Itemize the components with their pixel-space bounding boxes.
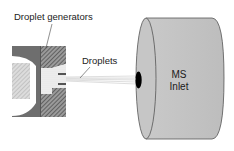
leader-droplets — [80, 67, 90, 78]
droplet-generator — [12, 46, 66, 117]
label-droplets: Droplets — [82, 55, 118, 66]
label-ms: MS — [172, 69, 187, 80]
label-inlet: Inlet — [170, 81, 189, 92]
label-droplet-generators: Droplet generators — [14, 11, 93, 22]
diagram-svg: Droplet generators Droplets MS Inlet — [0, 0, 234, 151]
diagram-canvas: Droplet generators Droplets MS Inlet — [0, 0, 234, 151]
leader-generators — [46, 24, 52, 48]
inlet-hole — [135, 72, 141, 89]
droplet-streams — [66, 76, 136, 84]
